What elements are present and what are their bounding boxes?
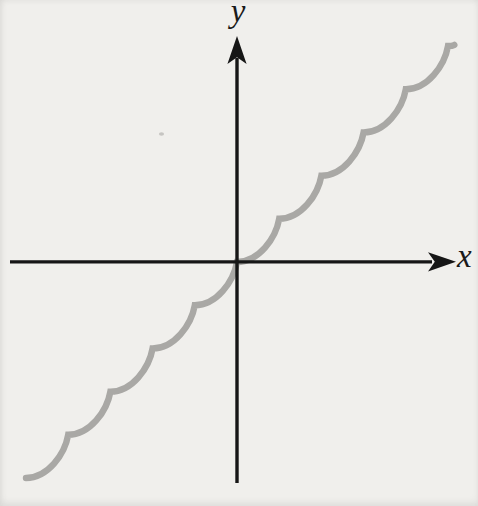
x-axis-arrowhead-icon (428, 252, 456, 271)
x-axis-label: x (456, 238, 472, 274)
graph-svg: y x (0, 0, 478, 506)
speck-artifact (159, 132, 164, 136)
y-axis-label: y (228, 0, 246, 29)
figure-canvas: y x (0, 0, 478, 506)
